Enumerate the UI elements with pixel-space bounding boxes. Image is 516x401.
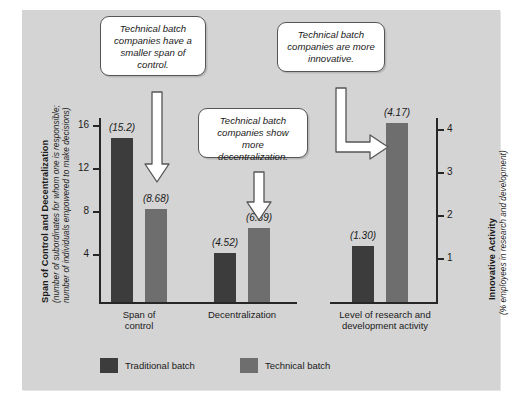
legend-item-technical-batch: Technical batch — [240, 358, 330, 373]
bar-decentralization-traditional — [214, 253, 236, 302]
bar-rnd-traditional — [352, 246, 374, 302]
legend: Traditional batch Technical batch — [100, 358, 364, 373]
legend-swatch-technical-batch — [240, 358, 258, 373]
right-tick-label-3: 3 — [447, 166, 465, 177]
right-axis-title: Innovative Activity — [487, 218, 497, 300]
left-tick-8 — [93, 211, 100, 213]
right-plot-y-axis — [436, 118, 438, 304]
category-label-span-line1: Span of — [99, 309, 179, 320]
left-tick-16 — [93, 125, 100, 127]
legend-item-traditional-batch: Traditional batch — [100, 358, 195, 373]
bar-label-span-traditional: (15.2) — [102, 122, 142, 133]
left-tick-label-8: 8 — [71, 205, 89, 216]
left-plot-x-axis — [99, 302, 297, 304]
bar-label-rnd-traditional: (1.30) — [343, 230, 383, 241]
figure-root: Span of Control and Decentralization (nu… — [0, 0, 516, 401]
left-tick-4 — [93, 254, 100, 256]
callout-decentralization-arrow — [245, 172, 275, 238]
callout-innovation-arrow — [300, 88, 410, 178]
left-axis-subtitle-line1: (number of subordinates for whom one is … — [51, 105, 61, 303]
left-tick-label-4: 4 — [71, 248, 89, 259]
bar-span-traditional — [111, 138, 133, 302]
right-tick-label-4: 4 — [447, 123, 465, 134]
left-axis-title: Span of Control and Decentralization — [40, 140, 50, 303]
right-axis-subtitle: (% employees in research and development… — [498, 150, 508, 315]
bar-span-technical — [145, 209, 167, 302]
category-label-rnd-line1: Level of research and — [320, 309, 450, 320]
legend-swatch-traditional-batch — [100, 358, 118, 373]
category-label-rnd-line2: development activity — [320, 320, 450, 331]
category-label-rnd: Level of research and development activi… — [320, 309, 450, 331]
callout-span-arrow — [143, 92, 173, 202]
legend-label-traditional-batch: Traditional batch — [125, 360, 195, 371]
right-tick-3 — [437, 172, 444, 174]
bar-label-decentralization-traditional: (4.52) — [205, 237, 245, 248]
left-tick-12 — [93, 168, 100, 170]
right-tick-label-2: 2 — [447, 209, 465, 220]
right-tick-label-1: 1 — [447, 252, 465, 263]
callout-decentralization: Technical batch companies show more dece… — [198, 108, 308, 158]
category-label-decentralization: Decentralization — [192, 309, 292, 320]
legend-label-technical-batch: Technical batch — [265, 360, 330, 371]
left-axis-subtitle-line2: number of individuals empowered to make … — [61, 107, 71, 303]
bar-decentralization-technical — [248, 228, 270, 302]
left-tick-label-12: 12 — [71, 162, 89, 173]
right-tick-2 — [437, 215, 444, 217]
callout-innovation: Technical batch companies are more innov… — [277, 22, 385, 72]
category-label-span-line2: control — [99, 320, 179, 331]
left-tick-label-16: 16 — [71, 119, 89, 130]
callout-span-of-control: Technical batch companies have a smaller… — [100, 16, 206, 76]
right-tick-4 — [437, 129, 444, 131]
right-plot-x-axis — [330, 302, 437, 304]
category-label-span-of-control: Span of control — [99, 309, 179, 331]
right-tick-1 — [437, 258, 444, 260]
